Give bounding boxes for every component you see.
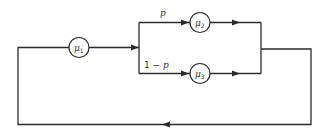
arrow-into-mu3-icon	[181, 71, 189, 77]
arrow-into-split-icon	[131, 45, 139, 51]
upper-branch-label: p	[160, 8, 166, 18]
arrow-into-mu2-icon	[181, 20, 189, 26]
arrow-feedback-icon	[162, 122, 170, 128]
node-mu1: μ1	[69, 38, 89, 58]
node-mu2: μ2	[190, 13, 210, 33]
node-mu3: μ3	[190, 64, 210, 84]
queueing-network-diagram: μ1 μ2 μ3 p 1 − p	[0, 0, 326, 135]
lower-branch-label: 1 − p	[144, 60, 169, 70]
arrow-mu3-out-icon	[232, 71, 240, 77]
arrow-mu2-out-icon	[232, 20, 240, 26]
